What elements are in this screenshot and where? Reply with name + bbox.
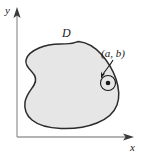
point-dot <box>106 81 111 86</box>
x-axis-label: x <box>129 141 135 153</box>
point-label-ab: (a, b) <box>101 47 125 60</box>
y-axis-label: y <box>4 4 10 16</box>
region-label-d: D <box>61 26 71 40</box>
math-figure-region-d: y x D (a, b) <box>0 0 147 160</box>
figure-canvas: y x D (a, b) <box>0 0 147 160</box>
